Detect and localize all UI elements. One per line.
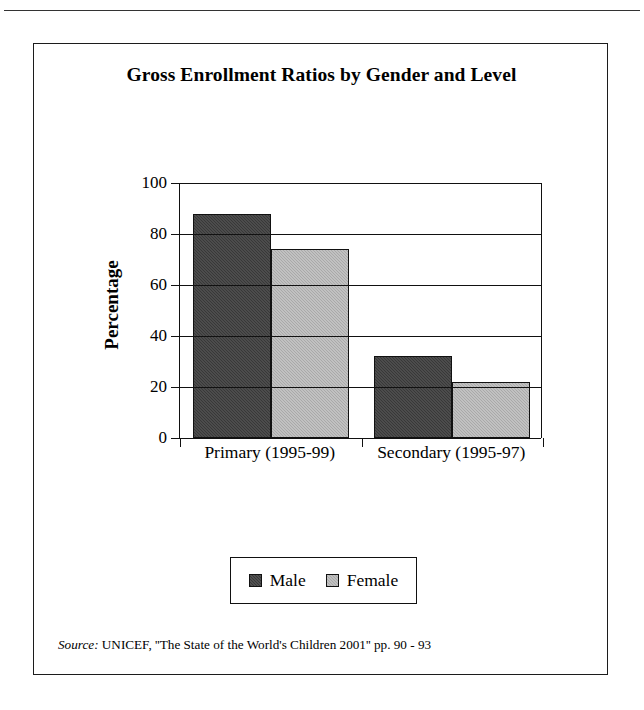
source-text: UNICEF, ''The State of the World's Child… xyxy=(102,637,431,652)
y-axis-title: Percentage xyxy=(101,205,123,405)
bars-layer xyxy=(180,183,541,438)
source-note: Source: UNICEF, ''The State of the World… xyxy=(58,636,598,653)
source-label: Source: xyxy=(58,637,99,652)
y-tick-label: 20 xyxy=(150,377,167,397)
legend-label-female: Female xyxy=(347,570,399,591)
figure-frame: Gross Enrollment Ratios by Gender and Le… xyxy=(33,43,608,675)
x-axis-label: Primary (1995-99) xyxy=(179,442,361,463)
bar-male-0 xyxy=(193,214,271,438)
y-tick-mark xyxy=(171,438,180,439)
y-tick-mark xyxy=(171,183,180,184)
x-axis-label: Secondary (1995-97) xyxy=(361,442,543,463)
y-tick-mark xyxy=(171,387,180,388)
y-gridline xyxy=(180,234,541,235)
legend-label-male: Male xyxy=(270,570,306,591)
y-tick-label: 0 xyxy=(159,428,168,448)
chart-legend: Male Female xyxy=(230,557,417,604)
x-tick-mark xyxy=(543,438,544,447)
bar-male-1 xyxy=(374,356,452,438)
y-gridline xyxy=(180,438,541,439)
legend-item-female: Female xyxy=(326,570,399,591)
plot-area: 020406080100 xyxy=(179,183,542,438)
bar-female-1 xyxy=(452,382,530,438)
legend-swatch-male-icon xyxy=(249,574,262,587)
y-tick-label: 100 xyxy=(142,173,168,193)
page-top-rule xyxy=(4,10,640,11)
bar-female-0 xyxy=(271,249,349,438)
y-tick-mark xyxy=(171,234,180,235)
y-gridline xyxy=(180,285,541,286)
legend-swatch-female-icon xyxy=(326,574,339,587)
y-tick-mark xyxy=(171,285,180,286)
y-tick-label: 60 xyxy=(150,275,167,295)
y-gridline xyxy=(180,387,541,388)
y-gridline xyxy=(180,183,541,184)
y-gridline xyxy=(180,336,541,337)
y-tick-mark xyxy=(171,336,180,337)
legend-item-male: Male xyxy=(249,570,306,591)
y-tick-label: 80 xyxy=(150,224,167,244)
y-tick-label: 40 xyxy=(150,326,167,346)
